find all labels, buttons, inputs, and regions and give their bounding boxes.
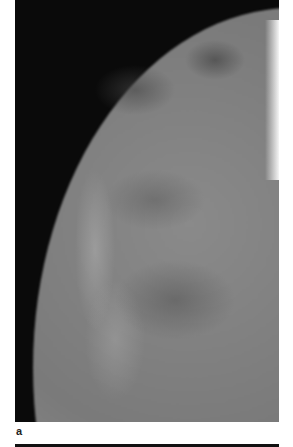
chest-wall-edge bbox=[265, 20, 279, 180]
panel-label: a bbox=[16, 425, 22, 437]
mammogram-image bbox=[15, 0, 279, 422]
parenchyma-texture bbox=[15, 0, 279, 422]
